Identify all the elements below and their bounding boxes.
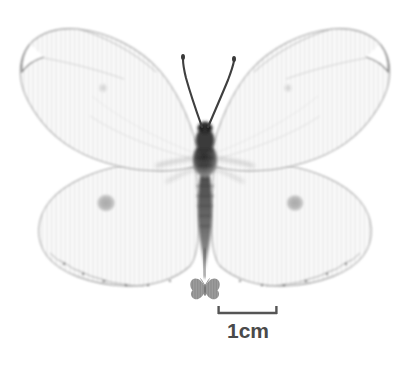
forewing-spot-right bbox=[283, 83, 292, 92]
forewing-spot-left bbox=[98, 83, 108, 93]
butterfly-specimen-image bbox=[0, 0, 415, 370]
hindwing-spot-right bbox=[287, 195, 304, 211]
abdomen-tip bbox=[204, 248, 205, 278]
specimen-figure: 1cm bbox=[0, 0, 415, 370]
hindwing-spot-left bbox=[97, 195, 115, 212]
